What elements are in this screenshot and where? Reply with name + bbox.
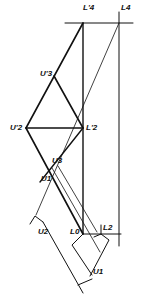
label-u1-lower: U1 — [93, 268, 103, 276]
label-u2: U2 — [38, 228, 48, 236]
label-l0: L0 — [70, 228, 79, 236]
u2-corner — [30, 216, 43, 224]
label-u3: U3 — [52, 157, 62, 165]
l0-quad — [72, 234, 92, 275]
construction-diagram — [0, 0, 141, 299]
label-u3-prime: U'3 — [40, 70, 52, 78]
edge-u3p-l2p — [54, 76, 83, 128]
label-u1-upper: U1 — [41, 175, 51, 183]
thin-diagonal-l4 — [36, 23, 119, 215]
label-l2-prime: L'2 — [86, 124, 97, 132]
label-u2-prime: U'2 — [10, 124, 22, 132]
label-l4: L4 — [121, 4, 130, 12]
thin-parallel-1 — [52, 168, 100, 252]
edge-u2p-l0 — [26, 128, 83, 234]
u1-tick — [78, 279, 92, 285]
label-l2: L2 — [103, 224, 112, 232]
label-l4-prime: L'4 — [83, 4, 94, 12]
